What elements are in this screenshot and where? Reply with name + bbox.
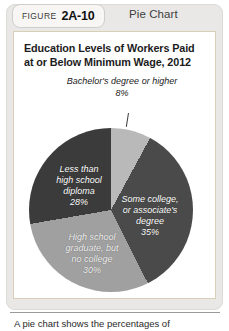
- slice-label-some-college-line-3: degree: [111, 216, 189, 227]
- chart-title-line-2: at or Below Minimum Wage, 2012: [24, 55, 210, 69]
- slice-label-less-than-high-school-line-1: Less than: [42, 164, 116, 175]
- slice-label-less-than-high-school-line-2: high school: [42, 175, 116, 186]
- figure-word-label: FIGURE: [22, 11, 57, 21]
- chart-title-line-1: Education Levels of Workers Paid: [24, 42, 195, 54]
- bachelors-callout-percent: 8%: [62, 88, 182, 100]
- slice-label-less-than-high-school-percent: 28%: [42, 197, 116, 208]
- bachelors-callout-line-1: Bachelor's degree: [67, 76, 139, 86]
- slice-label-high-school-graduate-line-1: High school: [49, 232, 135, 243]
- slice-label-high-school-graduate-percent: 30%: [49, 265, 135, 276]
- pie-chart: Less than high school diploma 28% Some c…: [27, 128, 203, 292]
- footer-divider: [10, 312, 220, 313]
- slice-label-some-college-line-2: or associate's: [111, 205, 189, 216]
- callout-leader-line-icon: [126, 113, 129, 127]
- figure-number-label: 2A-10: [62, 9, 95, 23]
- chart-panel: Education Levels of Workers Paid at or B…: [13, 31, 216, 299]
- figure-tab: FIGURE 2A-10: [12, 4, 105, 28]
- footer-caption: A pie chart shows the percentages of: [14, 318, 219, 331]
- figure-header: FIGURE 2A-10 Pie Chart: [6, 4, 223, 30]
- bachelors-callout-line-2: or higher: [142, 76, 178, 86]
- figure-kind-label: Pie Chart: [129, 8, 178, 20]
- slice-label-some-college-line-1: Some college,: [111, 194, 189, 205]
- slice-label-less-than-high-school-line-3: diploma: [42, 186, 116, 197]
- slice-label-less-than-high-school: Less than high school diploma 28%: [42, 164, 116, 208]
- chart-title: Education Levels of Workers Paid at or B…: [24, 41, 210, 69]
- slice-label-high-school-graduate-line-3: no college: [49, 254, 135, 265]
- bachelors-callout-label: Bachelor's degree or higher 8%: [62, 76, 182, 99]
- figure-card: FIGURE 2A-10 Pie Chart Education Levels …: [6, 4, 223, 310]
- figure-screenshot: FIGURE 2A-10 Pie Chart Education Levels …: [0, 0, 229, 331]
- slice-label-high-school-graduate-line-2: graduate, but: [49, 243, 135, 254]
- slice-label-high-school-graduate: High school graduate, but no college 30%: [49, 232, 135, 276]
